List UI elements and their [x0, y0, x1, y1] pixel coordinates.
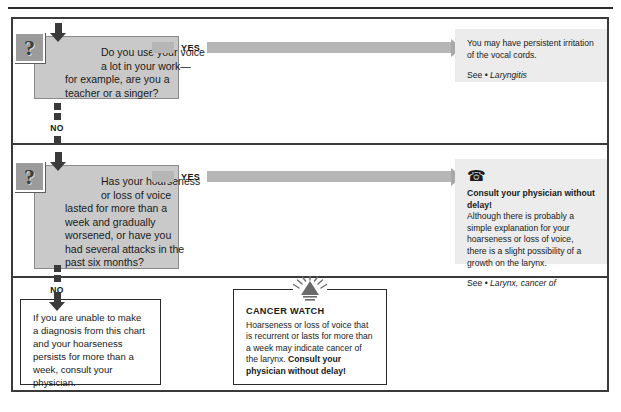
section-divider-1 [13, 143, 607, 145]
telephone-icon: ☎ [467, 168, 595, 183]
answer-2-body: Although there is probably a simple expl… [467, 211, 595, 269]
yes-label: YES [174, 43, 207, 53]
question-2-line: lasted for more than a [65, 202, 168, 216]
final-line: persists for more than a [33, 350, 149, 363]
question-2-line: past six months? [65, 256, 168, 270]
arrow-head [49, 302, 65, 311]
yes-stub [152, 171, 174, 182]
no-label: NO [48, 123, 66, 133]
cancer-watch-box: CANCER WATCH Hoarseness or loss of voice… [233, 289, 387, 385]
no-dash [54, 136, 61, 143]
question-2-line: had several attacks in the [65, 243, 168, 257]
yes-path-2: YES [152, 171, 462, 182]
see-topic: Laryngitis [490, 70, 527, 80]
final-line: a diagnosis from this chart [33, 324, 149, 337]
answer-1-panel: You may have persistent irritation of th… [455, 29, 607, 82]
question-1-line: a lot in your work— [65, 60, 168, 74]
top-rule [8, 7, 613, 9]
arrow-shaft [55, 152, 62, 162]
yes-bar [207, 171, 451, 182]
cancer-watch-body: Hoarseness or loss of voice that is recu… [246, 320, 375, 378]
question-mark-icon: ? [14, 161, 45, 192]
arrow-into-question-2 [50, 152, 66, 171]
no-dash [54, 103, 61, 110]
answer-2-headline: Consult your physician without delay! [467, 188, 595, 211]
no-dash [54, 265, 61, 272]
answer-1-see: See • Laryngitis [467, 70, 595, 82]
no-path-2: NO [48, 262, 66, 295]
final-line: and your hoarseness [33, 337, 149, 350]
see-prefix: See • [467, 70, 490, 80]
question-1-line: for example, are you a [65, 73, 168, 87]
question-1-line: teacher or a singer? [65, 87, 168, 101]
see-topic: Larynx, cancer of [490, 278, 556, 288]
no-path-1: NO [48, 100, 66, 146]
yes-bar [207, 42, 451, 53]
question-2-line: or loss of voice [65, 189, 168, 203]
answer-2-panel: ☎ Consult your physician without delay! … [455, 159, 607, 264]
arrow-into-question-1 [50, 23, 66, 42]
question-2-line: week and gradually [65, 216, 168, 230]
final-line: week, consult your [33, 363, 149, 376]
final-line: physician. [33, 376, 149, 389]
answer-1-body: You may have persistent irritation of th… [467, 38, 595, 61]
arrow-head [50, 33, 66, 42]
yes-stub [152, 42, 174, 53]
arrow-shaft [54, 292, 61, 302]
final-outcome-box: If you are unable to make a diagnosis fr… [20, 299, 161, 385]
beacon-triangle [301, 281, 319, 295]
answer-2-see: See • Larynx, cancer of [467, 278, 595, 290]
cancer-watch-title: CANCER WATCH [246, 306, 375, 318]
arrow-into-final-box [49, 292, 65, 311]
final-line: If you are unable to make [33, 311, 149, 324]
question-mark-icon: ? [14, 32, 45, 63]
no-dash [54, 275, 61, 282]
arrow-shaft [55, 23, 62, 33]
yes-label: YES [174, 172, 207, 182]
beacon-icon-svg [287, 276, 333, 302]
no-dash [54, 113, 61, 120]
arrow-head [50, 162, 66, 171]
yes-path-1: YES [152, 42, 462, 53]
see-prefix: See • [467, 278, 490, 288]
beacon-icon [287, 276, 333, 302]
symptom-chart-page: Do you use your voice a lot in your work… [0, 0, 621, 412]
question-2-line: worsened, or have you [65, 229, 168, 243]
